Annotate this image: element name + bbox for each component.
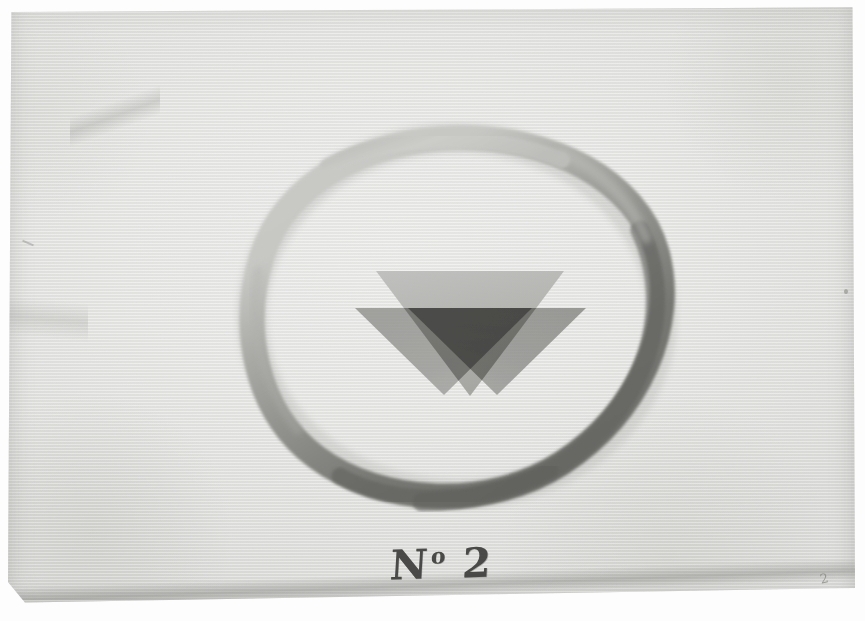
stray-ink-dot-right — [844, 289, 848, 294]
pencil-annotation-upper: 2 — [819, 570, 830, 586]
handwritten-caption: No 2 — [389, 538, 496, 589]
pencil-annotation-lower-left: hs — [810, 588, 823, 600]
paper-crease-top-left — [70, 6, 160, 226]
caption-number: 2 — [461, 538, 495, 587]
artwork-scan-canvas: No 2 2 hs 174 — [0, 0, 865, 621]
triangles-svg — [338, 254, 598, 406]
stray-pencil-mark-left — [22, 240, 34, 247]
caption-ordinal: o — [430, 542, 446, 568]
triangle-composition — [338, 254, 598, 406]
paper-crease-left — [8, 156, 88, 476]
paper-sheet: No 2 2 hs 174 — [8, 6, 855, 606]
caption-prefix: N — [389, 540, 432, 589]
pencil-annotation-lower-right: 174 — [836, 586, 855, 600]
